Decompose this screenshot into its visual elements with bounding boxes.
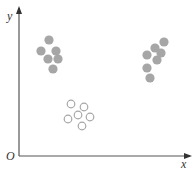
- open-point: [67, 100, 75, 108]
- cluster-top-left-filled: [36, 35, 62, 73]
- filled-point: [53, 54, 62, 63]
- cluster-bottom-middle-open: [64, 100, 94, 130]
- filled-point: [36, 46, 45, 55]
- y-axis-label: y: [7, 10, 12, 22]
- x-axis-label: x: [181, 158, 186, 170]
- open-point: [74, 111, 82, 119]
- filled-point: [44, 35, 53, 44]
- filled-point: [43, 54, 52, 63]
- open-point: [78, 122, 86, 130]
- filled-point: [145, 73, 154, 82]
- scatter-diagram: [0, 0, 196, 172]
- origin-label: O: [6, 150, 15, 162]
- open-point: [64, 115, 72, 123]
- filled-point: [51, 46, 60, 55]
- filled-point: [142, 50, 151, 59]
- filled-point: [152, 55, 161, 64]
- cluster-top-right-filled: [142, 37, 168, 82]
- filled-point: [48, 64, 57, 73]
- open-point: [80, 103, 88, 111]
- data-points: [36, 35, 168, 129]
- filled-point: [159, 37, 168, 46]
- open-point: [86, 113, 94, 121]
- filled-point: [142, 63, 151, 72]
